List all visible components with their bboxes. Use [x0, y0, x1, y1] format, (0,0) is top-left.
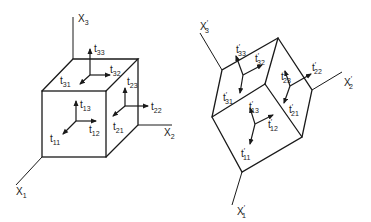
label-t32-prime: t′32 — [255, 52, 265, 66]
axis-x1-prime — [232, 172, 242, 205]
label-x3-prime: X′3 — [200, 19, 209, 34]
label-x1: X1 — [16, 186, 27, 199]
top-face-arrows — [80, 49, 110, 84]
label-t21-prime: t′21 — [289, 103, 299, 117]
label-t31-prime: t′31 — [223, 91, 233, 105]
label-t12: t12 — [89, 124, 100, 137]
label-x2-prime: X′2 — [344, 75, 353, 90]
label-t33-prime: t′33 — [236, 43, 246, 57]
front-face — [42, 91, 106, 157]
label-t11: t11 — [50, 133, 60, 146]
axis-x3-prime — [200, 33, 222, 70]
label-x3: X3 — [78, 13, 89, 26]
right-face-arrows-prime — [284, 71, 311, 103]
right-face-arrows — [113, 88, 148, 116]
label-t12-prime: t′12 — [268, 118, 278, 132]
label-t22: t22 — [151, 101, 162, 114]
label-t13: t13 — [80, 99, 91, 112]
left-cube: X3 X2 X1 t33 t32 t31 t13 t12 t11 t23 t22… — [16, 13, 175, 199]
right-cube: X′3 X′2 X′1 t′33 t′32 t′31 t′13 t′12 t′1… — [200, 19, 353, 219]
label-t21: t21 — [113, 121, 124, 134]
label-t33: t33 — [94, 43, 105, 56]
axis-x1 — [16, 157, 42, 185]
label-t23: t23 — [127, 76, 138, 89]
label-x1-prime: X′1 — [237, 204, 246, 219]
label-t31: t31 — [60, 75, 71, 88]
stress-diagram: X3 X2 X1 t33 t32 t31 t13 t12 t11 t23 t22… — [0, 0, 371, 222]
label-t32: t32 — [110, 64, 121, 77]
label-t11-prime: t′11 — [241, 147, 250, 161]
label-t13-prime: t′13 — [249, 100, 259, 114]
label-x2: X2 — [164, 127, 175, 140]
label-t22-prime: t′22 — [312, 61, 322, 75]
